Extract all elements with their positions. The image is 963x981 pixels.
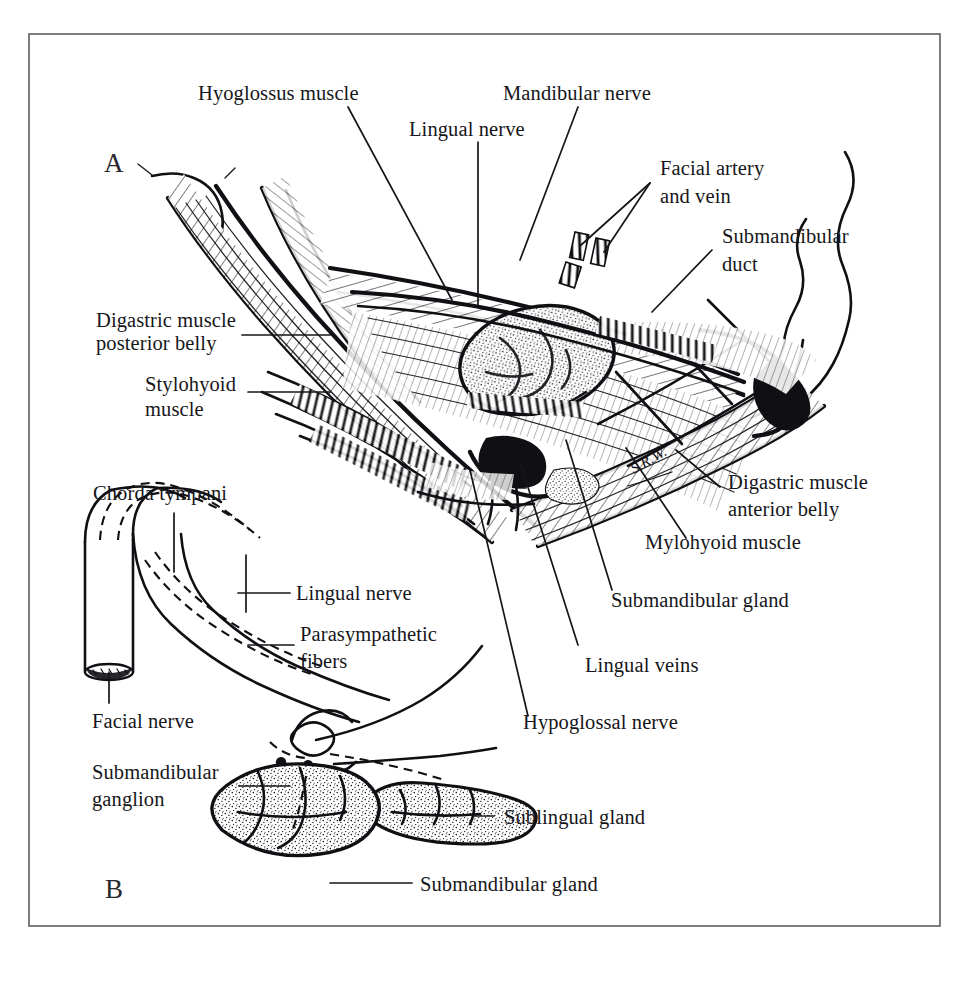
label-digastric-posterior-line1: Digastric muscle (96, 309, 236, 332)
label-submandibular-ganglion-line2: ganglion (92, 788, 165, 811)
label-lingual-veins: Lingual veins (585, 654, 698, 677)
panel-a-label: A (104, 148, 124, 178)
label-facial-artery-line2: and vein (660, 185, 731, 207)
label-mylohyoid-muscle: Mylohyoid muscle (645, 531, 801, 554)
label-stylohyoid-line2: muscle (145, 398, 204, 420)
label-facial-nerve: Facial nerve (92, 710, 194, 732)
label-chorda-tympani: Chorda tympani (93, 482, 227, 505)
label-submandibular-duct-line2: duct (722, 253, 758, 275)
label-parasympathetic-line2: fibers (300, 650, 347, 672)
label-submandibular-gland-a: Submandibular gland (611, 589, 789, 612)
label-lingual-nerve-b: Lingual nerve (296, 582, 412, 605)
label-hypoglossal-nerve: Hypoglossal nerve (523, 711, 678, 734)
label-sublingual-gland: Sublingual gland (504, 806, 645, 829)
label-submandibular-duct-line1: Submandibular (722, 225, 849, 247)
label-mandibular-nerve: Mandibular nerve (503, 82, 651, 104)
label-submandibular-ganglion-line1: Submandibular (92, 761, 219, 783)
label-digastric-anterior-line2: anterior belly (728, 498, 840, 521)
label-hyoglossus-muscle: Hyoglossus muscle (198, 82, 359, 105)
label-lingual-nerve-a: Lingual nerve (409, 118, 525, 141)
label-stylohyoid-line1: Stylohyoid (145, 373, 236, 396)
figure-root: S.R.W. A Hyoglossus muscle Man (0, 0, 963, 981)
label-digastric-posterior-line2: posterior belly (96, 332, 217, 355)
label-digastric-anterior-line1: Digastric muscle (728, 471, 868, 494)
submandibular-gland-b (212, 764, 379, 856)
label-submandibular-gland-b: Submandibular gland (420, 873, 598, 896)
label-parasympathetic-line1: Parasympathetic (300, 623, 437, 646)
anatomy-plate: S.R.W. A Hyoglossus muscle Man (0, 0, 963, 981)
panel-b-label: B (105, 874, 123, 904)
label-facial-artery-line1: Facial artery (660, 157, 765, 180)
